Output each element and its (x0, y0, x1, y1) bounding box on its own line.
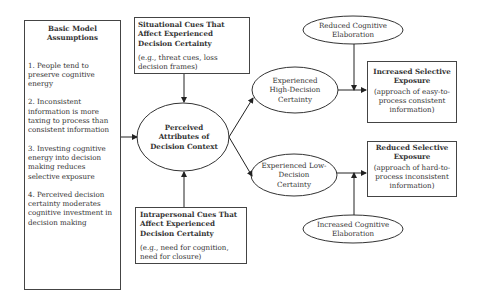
reduced-selective-exposure-box: Reduced Selective Exposure (approach of … (367, 141, 457, 197)
reduced-elaboration-node: Reduced Cognitive Elaboration (315, 20, 391, 40)
reduced-elaboration-label: Reduced Cognitive Elaboration (315, 21, 391, 40)
low-certainty-label: Experienced Low-Decision Certainty (261, 161, 327, 189)
perceived-attributes-label: Perceived Attributes of Decision Context (148, 123, 220, 151)
basic-model-assumptions-box: Basic Model Assumptions 1. People tend t… (24, 20, 121, 290)
increased-selective-exposure-box: Increased Selective Exposure (approach o… (367, 61, 457, 123)
low-certainty-node: Experienced Low-Decision Certainty (261, 157, 327, 193)
perceived-attributes-node: Perceived Attributes of Decision Context (148, 112, 220, 162)
assumption-item: 3. Investing cognitive energy into decis… (28, 144, 117, 181)
assumptions-title: Basic Model Assumptions (28, 24, 117, 43)
high-certainty-label: Experienced High-Decision Certainty (262, 76, 328, 104)
assumption-item: 4. Perceived decision certainty moderate… (28, 190, 117, 227)
increased-elaboration-label: Increased Cognitive Elaboration (313, 220, 393, 239)
intrapersonal-cues-examples: (e.g., need for cognition, need for clos… (140, 243, 242, 262)
situational-cues-examples: (e.g., threat cues, loss decision frames… (138, 53, 246, 72)
intrapersonal-cues-box: Intrapersonal Cues That Affect Experienc… (135, 207, 247, 264)
high-certainty-node: Experienced High-Decision Certainty (262, 72, 328, 108)
situational-cues-box: Situational Cues That Affect Experienced… (134, 17, 250, 74)
arrow-center-to-low (229, 137, 252, 176)
situational-cues-title: Situational Cues That Affect Experienced… (138, 20, 246, 48)
increased-exposure-title: Increased Selective Exposure (370, 67, 454, 86)
reduced-exposure-title: Reduced Selective Exposure (370, 143, 454, 162)
reduced-exposure-desc: (approach of hard-to-process inconsisten… (370, 163, 454, 191)
increased-elaboration-node: Increased Cognitive Elaboration (313, 219, 393, 239)
assumption-item: 2. Inconsistent information is more taxi… (28, 97, 117, 134)
increased-exposure-desc: (approach of easy-to-process consistent … (370, 87, 454, 115)
arrow-center-to-high (229, 98, 253, 137)
intrapersonal-cues-title: Intrapersonal Cues That Affect Experienc… (140, 210, 242, 238)
assumption-item: 1. People tend to preserve cognitive ene… (28, 61, 117, 89)
